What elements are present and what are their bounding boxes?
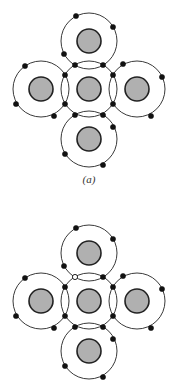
electron [100, 162, 105, 167]
nucleus-top [77, 241, 101, 265]
electron [73, 13, 78, 18]
electron [100, 62, 105, 67]
electron [61, 51, 66, 56]
electron [22, 63, 27, 68]
diagram-1 [13, 225, 165, 380]
electron [148, 325, 153, 330]
diagram-0 [13, 13, 165, 168]
electron [51, 325, 56, 330]
electron [22, 275, 27, 280]
electron-hole [72, 274, 77, 279]
nucleus-left [29, 289, 53, 313]
nucleus-right [125, 289, 149, 313]
electron [110, 24, 115, 29]
electron [148, 113, 153, 118]
nucleus-right [125, 77, 149, 101]
electron [100, 112, 105, 117]
electron [72, 112, 77, 117]
electron [72, 62, 77, 67]
electron [100, 374, 105, 379]
electron [62, 363, 67, 368]
electron [61, 263, 66, 268]
electron [62, 101, 67, 106]
electron [62, 284, 67, 289]
electron [62, 313, 67, 318]
nucleus-left [29, 77, 53, 101]
nucleus-bottom [77, 127, 101, 151]
electron [62, 151, 67, 156]
nucleus-bottom [77, 339, 101, 363]
electron [120, 61, 125, 66]
electron [62, 72, 67, 77]
electron [13, 313, 18, 318]
electron [100, 324, 105, 329]
electron [72, 324, 77, 329]
electron [110, 72, 115, 77]
electron [110, 236, 115, 241]
electron [51, 113, 56, 118]
nucleus-center [77, 289, 101, 313]
electron [110, 284, 115, 289]
electron [110, 101, 115, 106]
atom-bonding-diagram [0, 0, 172, 388]
electron [120, 273, 125, 278]
diagram-a-label: (a) [69, 173, 109, 185]
electron [100, 274, 105, 279]
electron [159, 74, 164, 79]
electron [110, 336, 115, 341]
electron [159, 286, 164, 291]
electron [73, 225, 78, 230]
electron [110, 313, 115, 318]
electron [13, 101, 18, 106]
nucleus-center [77, 77, 101, 101]
nucleus-top [77, 29, 101, 53]
electron [110, 124, 115, 129]
